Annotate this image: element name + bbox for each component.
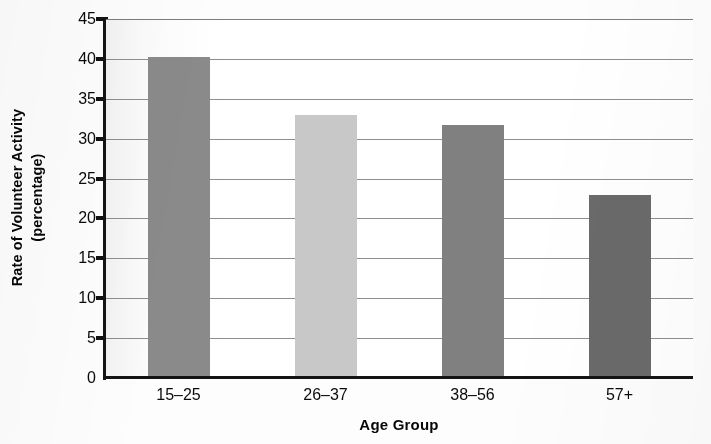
- bar-series: [105, 19, 693, 378]
- bar-4: [589, 195, 651, 378]
- y-tick-label-0: 0: [58, 370, 96, 386]
- y-tick-label-30: 30: [58, 131, 96, 147]
- y-tick-label-40: 40: [58, 51, 96, 67]
- x-axis-line: [103, 376, 693, 379]
- y-tick-label-5: 5: [58, 330, 96, 346]
- plot-area: [105, 19, 693, 378]
- bar-2: [295, 115, 357, 378]
- bar-chart-screenshot: Rate of Volunteer Activity (percentage) …: [0, 0, 711, 444]
- y-tick-label-10: 10: [58, 290, 96, 306]
- y-tick-label-15: 15: [58, 250, 96, 266]
- y-tick-label-25: 25: [58, 171, 96, 187]
- x-tick-label-3: 38–56: [450, 386, 495, 404]
- x-axis-title: Age Group: [105, 416, 693, 433]
- bar-3: [442, 125, 504, 378]
- y-tick-label-35: 35: [58, 91, 96, 107]
- y-axis-title: Rate of Volunteer Activity (percentage): [0, 0, 56, 396]
- y-axis-title-line-1: Rate of Volunteer Activity: [8, 109, 28, 286]
- bar-1: [148, 57, 210, 379]
- y-axis-line: [103, 17, 106, 380]
- x-tick-label-2: 26–37: [303, 386, 348, 404]
- y-axis-tick-labels: 051015202530354045: [58, 0, 96, 396]
- x-tick-label-1: 15–25: [156, 386, 201, 404]
- y-tick-label-45: 45: [58, 11, 96, 27]
- y-tick-label-20: 20: [58, 210, 96, 226]
- x-axis-tick-labels: 15–2526–3738–5657+: [105, 386, 693, 412]
- x-tick-label-4: 57+: [606, 386, 633, 404]
- y-axis-title-line-2: (percentage): [28, 109, 48, 286]
